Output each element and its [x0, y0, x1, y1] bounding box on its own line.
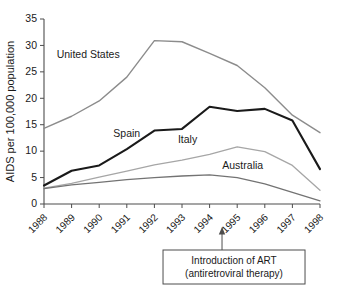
x-tick-label: 1991: [109, 211, 133, 235]
annotation-line-2: (antiretroviral therapy): [185, 268, 283, 279]
y-tick-label: 30: [25, 39, 37, 51]
series-line-spain: [44, 107, 320, 186]
y-axis-title: AIDS per 100,000 population: [4, 41, 16, 182]
y-tick-label: 35: [25, 12, 37, 24]
y-tick-label: 25: [25, 65, 37, 77]
series-label-spain: Spain: [113, 127, 140, 139]
y-axis: 05101520253035: [25, 12, 44, 209]
chart-canvas: 05101520253035 1988198919901991199219931…: [0, 0, 338, 289]
series-line-australia: [44, 175, 320, 201]
y-tick-label: 20: [25, 92, 37, 104]
aids-incidence-chart: 05101520253035 1988198919901991199219931…: [0, 0, 338, 289]
x-tick-label: 1989: [54, 211, 78, 235]
x-tick-label: 1990: [81, 211, 105, 235]
x-tick-label: 1996: [247, 211, 271, 235]
art-annotation: Introduction of ART(antiretroviral thera…: [163, 227, 305, 284]
x-tick-label: 1997: [274, 211, 298, 235]
series-label-australia: Australia: [222, 159, 263, 171]
x-axis: 1988198919901991199219931994199519961997…: [26, 204, 326, 235]
y-tick-label: 10: [25, 144, 37, 156]
x-tick-label: 1998: [302, 211, 326, 235]
x-tick-label: 1993: [164, 211, 188, 235]
y-tick-label: 5: [31, 171, 37, 183]
series-label-italy: Italy: [178, 133, 198, 145]
y-tick-label: 15: [25, 118, 37, 130]
x-tick-label: 1988: [26, 211, 50, 235]
series-lines: [44, 41, 320, 201]
x-tick-label: 1992: [136, 211, 160, 235]
x-tick-label: 1994: [192, 211, 216, 235]
series-label-united-states: United States: [57, 48, 120, 60]
annotation-line-1: Introduction of ART: [191, 255, 276, 266]
y-tick-label: 0: [31, 197, 37, 209]
